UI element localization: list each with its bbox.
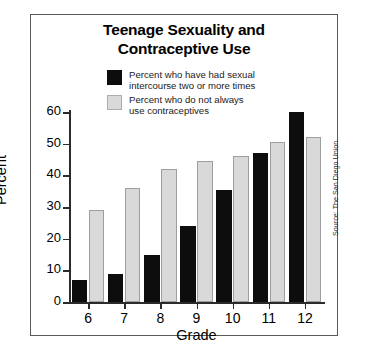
y-axis-tick-label: 40 — [27, 166, 61, 181]
x-axis-title: Grade — [70, 327, 323, 343]
legend-swatch-black-icon — [107, 70, 122, 85]
y-axis-tick-label: 50 — [27, 135, 61, 150]
x-axis-tick-label: 6 — [73, 310, 103, 326]
bar-grade-8-series-2 — [161, 169, 177, 302]
legend-label-intercourse-line-2: intercourse two or more times — [129, 80, 255, 91]
plot-area — [70, 112, 323, 302]
bar-grade-6-series-1 — [72, 280, 88, 302]
bar-grade-11-series-2 — [270, 142, 286, 302]
x-axis-tick-label: 11 — [254, 310, 284, 326]
x-axis-tick — [305, 302, 307, 309]
y-axis-title: Percent — [0, 155, 9, 205]
y-axis-tick — [63, 175, 70, 177]
y-axis-tick-label: 0 — [27, 293, 61, 308]
legend-label-intercourse: Percent who have had sexual intercourse … — [129, 69, 255, 91]
legend-item-intercourse: Percent who have had sexual intercourse … — [107, 69, 332, 91]
x-axis-tick — [160, 302, 162, 309]
y-axis-tick — [63, 270, 70, 272]
bar-grade-12-series-1 — [289, 112, 305, 302]
bar-grade-8-series-1 — [144, 255, 160, 303]
y-axis-tick-labels: 0102030405060 — [21, 0, 61, 359]
x-axis-tick-label: 9 — [182, 310, 212, 326]
legend-label-intercourse-line-1: Percent who have had sexual — [129, 69, 255, 80]
x-axis-tick — [88, 302, 90, 309]
bar-grade-7-series-2 — [125, 188, 141, 302]
source-note: Source: The San Diego Union. — [331, 139, 340, 236]
x-axis-tick-label: 12 — [290, 310, 320, 326]
legend-label-contraceptives-line-1: Percent who do not always — [129, 94, 244, 105]
legend-swatch-gray-icon — [107, 95, 122, 110]
bar-grade-9-series-1 — [180, 226, 196, 302]
chart-title-line-2: Contraceptive Use — [30, 39, 338, 58]
x-axis-tick-label: 8 — [145, 310, 175, 326]
y-axis-tick-label: 20 — [27, 230, 61, 245]
bar-grade-10-series-2 — [233, 156, 249, 302]
chart-title-line-1: Teenage Sexuality and — [30, 20, 338, 39]
x-axis-tick — [269, 302, 271, 309]
y-axis-tick — [63, 239, 70, 241]
y-axis-tick — [63, 207, 70, 209]
x-axis-tick — [124, 302, 126, 309]
y-axis-tick-label: 60 — [27, 103, 61, 118]
y-axis-tick — [63, 144, 70, 146]
x-axis-tick — [197, 302, 199, 309]
x-axis-tick — [233, 302, 235, 309]
bar-grade-6-series-2 — [89, 210, 105, 302]
y-axis-tick — [63, 112, 70, 114]
bar-grade-7-series-1 — [108, 274, 124, 303]
bar-grade-10-series-1 — [216, 190, 232, 302]
bar-grade-11-series-1 — [253, 153, 269, 302]
x-axis-tick-label: 10 — [218, 310, 248, 326]
y-axis-tick — [63, 302, 70, 304]
chart-title: Teenage Sexuality and Contraceptive Use — [30, 20, 338, 58]
bar-grade-9-series-2 — [197, 161, 213, 302]
x-axis-tick-label: 7 — [109, 310, 139, 326]
bar-grade-12-series-2 — [306, 137, 322, 302]
y-axis-tick-label: 30 — [27, 198, 61, 213]
y-axis-tick-label: 10 — [27, 261, 61, 276]
